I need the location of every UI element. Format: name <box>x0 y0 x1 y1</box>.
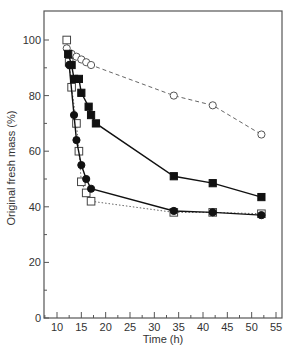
data-point <box>87 61 94 68</box>
data-point <box>258 193 265 200</box>
data-point <box>170 207 177 214</box>
data-point <box>70 111 77 118</box>
data-point <box>78 162 85 169</box>
y-tick-label: 60 <box>29 145 41 157</box>
y-tick-label: 80 <box>29 90 41 102</box>
x-axis: 10152025303540455055 <box>45 312 282 333</box>
x-axis-title: Time (h) <box>143 333 184 345</box>
data-point <box>65 50 72 57</box>
series-line <box>69 65 261 215</box>
x-tick-label: 55 <box>270 321 282 333</box>
x-tick-label: 45 <box>221 321 233 333</box>
data-point <box>258 131 265 138</box>
y-axis-title: Original fresh mass (%) <box>5 111 17 226</box>
data-point <box>258 212 265 219</box>
series-filled-squares <box>65 50 265 200</box>
data-point <box>209 102 216 109</box>
data-point <box>209 209 216 216</box>
data-point <box>170 173 177 180</box>
x-tick-label: 10 <box>51 321 63 333</box>
data-point <box>66 61 73 68</box>
data-point <box>83 175 90 182</box>
x-tick-label: 40 <box>197 321 209 333</box>
y-axis: 020406080100 <box>23 34 49 324</box>
data-point <box>170 92 177 99</box>
data-point <box>73 120 81 128</box>
data-point <box>75 75 82 82</box>
x-tick-label: 35 <box>173 321 185 333</box>
x-tick-label: 20 <box>100 321 112 333</box>
x-tick-label: 15 <box>75 321 87 333</box>
y-tick-label: 20 <box>29 256 41 268</box>
y-tick-label: 0 <box>35 312 41 324</box>
data-point <box>63 36 71 44</box>
series-filled-circles <box>66 61 265 218</box>
data-point <box>209 180 216 187</box>
x-tick-label: 25 <box>124 321 136 333</box>
line-chart: 020406080100 10152025303540455055 Time (… <box>0 0 298 355</box>
x-tick-label: 50 <box>246 321 258 333</box>
data-point <box>87 197 95 205</box>
data-point <box>73 136 80 143</box>
data-point <box>85 103 92 110</box>
data-point <box>78 89 85 96</box>
data-point <box>87 111 94 118</box>
x-tick-label: 30 <box>148 321 160 333</box>
y-tick-label: 40 <box>29 201 41 213</box>
data-series <box>63 36 265 219</box>
data-point <box>87 185 94 192</box>
data-point <box>92 120 99 127</box>
y-tick-label: 100 <box>23 34 41 46</box>
